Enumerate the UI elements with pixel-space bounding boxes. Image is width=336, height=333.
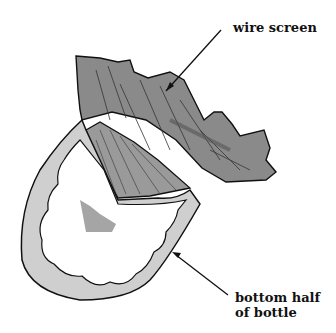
bottle-leader-line [176, 255, 228, 295]
wire-screen-leader-line [166, 30, 221, 91]
illustration [0, 0, 336, 333]
bottom-half-label-line1: bottom half [235, 290, 320, 305]
wire-screen-label: wire screen [233, 20, 317, 35]
bottom-half-label-line2: of bottle [235, 305, 297, 320]
